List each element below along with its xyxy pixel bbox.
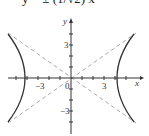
y-axis-label: y — [62, 16, 67, 26]
y-tick-label-neg3: −3 — [60, 106, 70, 116]
x-tick-label-neg3: −3 — [35, 81, 45, 91]
x-tick-label-3: 3 — [102, 81, 107, 91]
y-tick-label-3: 3 — [64, 40, 69, 50]
origin-label: 0 — [65, 81, 70, 91]
x-axis-label: x — [134, 78, 139, 88]
x-axis-arrow-icon — [140, 76, 144, 80]
hyperbola-plot: −3 0 3 3 −3 x y — [0, 0, 149, 136]
y-axis-arrow-icon — [69, 18, 73, 23]
